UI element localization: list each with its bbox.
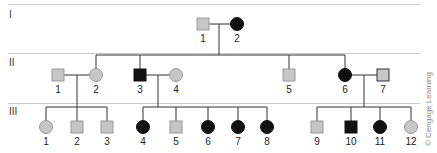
affected-female-circle-icon <box>232 121 245 134</box>
individual-III-10[interactable]: 10 <box>345 121 357 147</box>
unaffected-male-square-icon <box>283 69 295 81</box>
unaffected-male-square-icon <box>52 69 64 81</box>
individual-number: 12 <box>405 136 417 147</box>
individual-number: 3 <box>137 84 143 95</box>
individual-number: 5 <box>173 136 179 147</box>
individual-III-5[interactable]: 5 <box>170 121 182 147</box>
individual-number: 9 <box>314 136 320 147</box>
affected-female-circle-icon <box>231 18 244 31</box>
copyright-credit: © Cengage Learning <box>424 72 433 146</box>
individual-II-5[interactable]: 5 <box>283 69 295 95</box>
individual-number: 11 <box>375 136 386 147</box>
individual-number: 10 <box>345 136 357 147</box>
individual-number: 1 <box>200 33 206 44</box>
unaffected-male-square-icon <box>101 121 113 133</box>
individual-number: 2 <box>93 84 99 95</box>
affected-male-square-icon <box>345 121 357 133</box>
individual-number: 6 <box>342 84 348 95</box>
individual-number: 7 <box>235 136 241 147</box>
pedigree-individuals: 121234567123456789101112 <box>40 18 418 148</box>
individual-number: 1 <box>43 136 49 147</box>
unaffected-male-square-icon <box>170 121 182 133</box>
individual-number: 5 <box>286 84 292 95</box>
individual-III-4[interactable]: 4 <box>137 121 150 148</box>
individual-number: 6 <box>205 136 211 147</box>
unaffected-female-circle-icon <box>405 121 418 134</box>
individual-I-2[interactable]: 2 <box>231 18 244 45</box>
individual-II-3[interactable]: 3 <box>134 69 146 95</box>
individual-II-1[interactable]: 1 <box>52 69 64 95</box>
individual-II-4[interactable]: 4 <box>170 69 183 96</box>
unaffected-female-circle-icon <box>170 69 183 82</box>
affected-female-circle-icon <box>137 121 150 134</box>
individual-number: 7 <box>380 84 386 95</box>
unaffected-female-circle-icon <box>40 121 53 134</box>
generation-label-III: III <box>9 106 17 117</box>
individual-III-1[interactable]: 1 <box>40 121 53 148</box>
individual-III-6[interactable]: 6 <box>202 121 215 148</box>
individual-number: 1 <box>55 84 61 95</box>
individual-number: 8 <box>264 136 270 147</box>
individual-number: 4 <box>140 136 146 147</box>
individual-number: 3 <box>104 136 110 147</box>
generation-label-II: II <box>9 57 15 68</box>
affected-female-circle-icon <box>261 121 274 134</box>
individual-II-6[interactable]: 6 <box>339 69 352 96</box>
individual-I-1[interactable]: 1 <box>197 18 209 44</box>
affected-female-circle-icon <box>374 121 387 134</box>
individual-number: 2 <box>234 33 240 44</box>
unaffected-male-square-icon <box>197 18 209 30</box>
affected-male-square-icon <box>134 69 146 81</box>
individual-number: 4 <box>173 84 179 95</box>
unaffected-male-square-icon <box>311 121 323 133</box>
individual-III-11[interactable]: 11 <box>374 121 387 148</box>
individual-II-2[interactable]: 2 <box>90 69 103 96</box>
pedigree-diagram: I II III 121234567123456789101112 © Ceng… <box>0 0 437 153</box>
unaffected-female-circle-icon <box>90 69 103 82</box>
generation-label-I: I <box>9 9 12 20</box>
individual-III-2[interactable]: 2 <box>71 121 83 147</box>
affected-female-circle-icon <box>202 121 215 134</box>
unaffected-male-square-icon <box>71 121 83 133</box>
individual-III-9[interactable]: 9 <box>311 121 323 147</box>
individual-III-7[interactable]: 7 <box>232 121 245 148</box>
individual-number: 2 <box>74 136 80 147</box>
unaffected-male-square-icon <box>377 69 389 81</box>
affected-female-circle-icon <box>339 69 352 82</box>
individual-III-8[interactable]: 8 <box>261 121 274 148</box>
individual-III-12[interactable]: 12 <box>405 121 418 148</box>
individual-III-3[interactable]: 3 <box>101 121 113 147</box>
individual-II-7[interactable]: 7 <box>377 69 389 95</box>
